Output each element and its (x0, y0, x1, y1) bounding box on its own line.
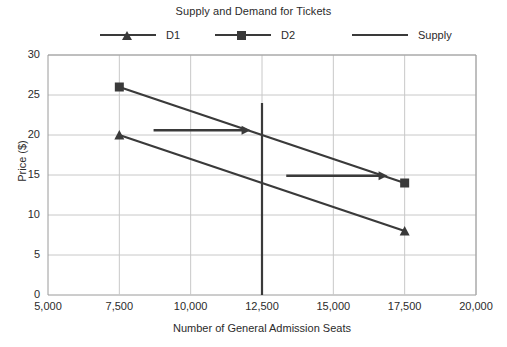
y-tick-label: 20 (6, 128, 40, 140)
x-tick-label: 15,000 (303, 300, 363, 312)
chart-page: Supply and Demand for Tickets D1 D2 Supp… (0, 0, 507, 347)
x-axis-label: Number of General Admission Seats (48, 322, 476, 334)
data-point-square (115, 83, 124, 92)
x-tick-label: 12,500 (232, 300, 292, 312)
y-tick-label: 5 (6, 248, 40, 260)
y-tick-label: 15 (6, 168, 40, 180)
x-tick-label: 5,000 (18, 300, 78, 312)
chart-plot-area (0, 0, 507, 347)
y-tick-label: 10 (6, 208, 40, 220)
x-tick-label: 7,500 (89, 300, 149, 312)
x-tick-label: 20,000 (446, 300, 506, 312)
y-tick-label: 30 (6, 48, 40, 60)
shift-arrow-upper-head-icon (242, 126, 251, 135)
y-tick-label: 25 (6, 88, 40, 100)
y-tick-label: 0 (6, 288, 40, 300)
data-point-square (400, 179, 409, 188)
x-tick-label: 17,500 (375, 300, 435, 312)
shift-arrow-lower-head-icon (379, 171, 388, 180)
x-tick-label: 10,000 (161, 300, 221, 312)
